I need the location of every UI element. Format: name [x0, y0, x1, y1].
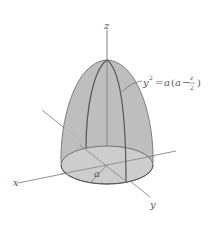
y-axis-label: y [149, 199, 156, 210]
svg-text:): ) [197, 77, 201, 88]
svg-text:2: 2 [149, 74, 153, 81]
paraboloid-diagram: z x y a y 2 = a ( a − z 2 ) [0, 0, 214, 225]
equation-label: y 2 = a ( a − z 2 ) [142, 74, 201, 91]
svg-text:a: a [164, 77, 170, 88]
z-axis-label: z [103, 20, 110, 31]
svg-text:a: a [175, 77, 181, 88]
svg-text:=: = [155, 77, 163, 88]
svg-text:y: y [142, 77, 149, 88]
x-axis-label: x [13, 177, 19, 188]
svg-text:z: z [189, 74, 194, 81]
svg-text:2: 2 [190, 84, 194, 91]
radius-label: a [94, 168, 100, 179]
